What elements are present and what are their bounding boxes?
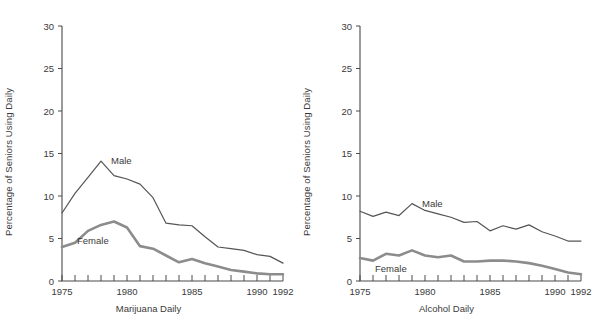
y-tick-label: 25 bbox=[43, 63, 54, 74]
x-tick-label: 1975 bbox=[349, 286, 370, 297]
series-line-male bbox=[62, 161, 283, 263]
x-tick-label: 1975 bbox=[51, 286, 72, 297]
series-line-female bbox=[62, 222, 283, 275]
plot-area-alcohol: 05101520253019751980198519901992MaleFema… bbox=[298, 0, 595, 300]
plot-area-marijuana: 05101520253019751980198519901992MaleFema… bbox=[0, 0, 297, 300]
series-label-female: Female bbox=[77, 235, 109, 246]
y-tick-label: 10 bbox=[341, 191, 352, 202]
x-tick-label: 1990 bbox=[544, 286, 565, 297]
y-tick-label: 30 bbox=[43, 21, 54, 32]
y-tick-label: 15 bbox=[43, 148, 54, 159]
y-tick-label: 10 bbox=[43, 191, 54, 202]
x-tick-label: 1985 bbox=[479, 286, 500, 297]
y-tick-label: 20 bbox=[43, 106, 54, 117]
x-axis-label-right: Alcohol Daily bbox=[298, 303, 595, 314]
series-line-male bbox=[360, 204, 581, 241]
y-tick-label: 25 bbox=[341, 63, 352, 74]
x-tick-label: 1980 bbox=[414, 286, 435, 297]
y-tick-label: 30 bbox=[341, 21, 352, 32]
y-tick-label: 15 bbox=[341, 148, 352, 159]
x-tick-label: 1980 bbox=[116, 286, 137, 297]
series-label-female: Female bbox=[375, 263, 407, 274]
x-tick-label: 1990 bbox=[246, 286, 267, 297]
y-tick-label: 20 bbox=[341, 106, 352, 117]
y-tick-label: 5 bbox=[347, 233, 352, 244]
series-label-male: Male bbox=[111, 155, 132, 166]
y-tick-label: 0 bbox=[347, 276, 352, 287]
x-tick-label: 1992 bbox=[272, 286, 293, 297]
series-label-male: Male bbox=[422, 198, 443, 209]
y-tick-label: 0 bbox=[49, 276, 54, 287]
x-tick-label: 1985 bbox=[181, 286, 202, 297]
y-tick-label: 5 bbox=[49, 233, 54, 244]
chart-panel-marijuana: Percentage of Seniors Using Daily 051015… bbox=[0, 0, 297, 324]
figure-two-panel-line-charts: Percentage of Seniors Using Daily 051015… bbox=[0, 0, 595, 324]
x-axis-label-left: Marijuana Daily bbox=[0, 303, 297, 314]
x-tick-label: 1992 bbox=[570, 286, 591, 297]
axis-spines bbox=[360, 26, 581, 281]
chart-panel-alcohol: Percentage of Seniors Using Daily 051015… bbox=[298, 0, 595, 324]
